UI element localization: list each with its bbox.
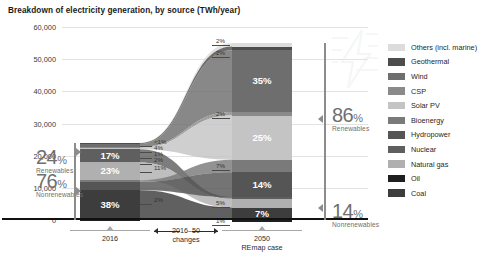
zero-axis-line [2, 218, 368, 220]
legend-label: Bioenergy [411, 116, 444, 125]
segment-leader-label: 2% [216, 37, 225, 44]
bar-segment-label: 23% [80, 166, 140, 176]
chart-canvas: Breakdown of electricity generation, by … [0, 0, 498, 262]
annotation-value: 14 [332, 200, 353, 222]
leader-line [140, 172, 152, 173]
annotation-value: 24 [36, 146, 57, 168]
legend-label: Oil [411, 174, 420, 183]
legend-swatch [388, 189, 405, 197]
legend-swatch [388, 175, 405, 183]
bracket-arrow-icon [318, 204, 323, 212]
segment-leader-label: 2% [216, 110, 225, 117]
y-axis-tick-label: 50,000 [4, 55, 56, 64]
leader-line [212, 207, 230, 208]
legend-item[interactable]: Wind [388, 69, 496, 84]
annotation-percent-sign: % [353, 208, 363, 220]
bar-segment-label: 7% [232, 209, 292, 219]
bar-segment-label: 17% [80, 151, 140, 161]
segment-leader-label: 5% [216, 199, 225, 206]
leader-line [140, 158, 152, 159]
segment-leader-label: 7% [216, 162, 225, 169]
chart-title: Breakdown of electricity generation, by … [8, 6, 240, 15]
bar-segment[interactable] [232, 199, 292, 208]
leader-line [212, 45, 230, 46]
bar-2016[interactable]: 17%23%38% [80, 143, 140, 220]
bar-segment[interactable] [232, 220, 292, 222]
x-axis: 20162016–50changes2050REmap case [62, 224, 368, 258]
annotation-value: 76 [36, 170, 57, 192]
leader-line [212, 57, 230, 58]
x-axis-caret-icon [258, 226, 266, 231]
legend-swatch [388, 44, 405, 52]
legend-item[interactable]: Hydropower [388, 128, 496, 143]
segment-leader-label: 2% [154, 196, 163, 203]
legend-label: CSP [411, 87, 426, 96]
bracket-2050-renewables [324, 43, 326, 220]
legend-item[interactable]: Nuclear [388, 142, 496, 157]
bracket-arrow-icon [76, 148, 81, 156]
legend-label: Others (incl. marine) [411, 43, 477, 52]
annotation-2050-renewables: 86% Renewables [332, 105, 369, 133]
legend-swatch [388, 146, 405, 154]
leader-line [140, 146, 152, 147]
y-axis-tick-label: 40,000 [4, 87, 56, 96]
legend-label: Wind [411, 72, 428, 81]
legend-item[interactable]: Bioenergy [388, 113, 496, 128]
legend-swatch [388, 117, 405, 125]
legend-label: Coal [411, 189, 426, 198]
annotation-caption: Renewables [332, 126, 369, 133]
leader-line [140, 164, 152, 165]
legend-label: Solar PV [411, 101, 440, 110]
legend-item[interactable]: Coal [388, 186, 496, 201]
legend-swatch [388, 58, 405, 66]
annotation-percent-sign: % [57, 178, 67, 190]
segment-leader-label: 2% [154, 156, 163, 163]
legend: Others (incl. marine)GeothermalWindCSPSo… [388, 40, 496, 201]
leader-line [212, 170, 230, 171]
leader-line [140, 152, 152, 153]
legend-swatch [388, 102, 405, 110]
legend-item[interactable]: Natural gas [388, 157, 496, 172]
segment-leader-label: 2% [216, 49, 225, 56]
bar-segment-label: 14% [232, 180, 292, 190]
annotation-value: 86 [332, 104, 353, 126]
leader-line [212, 118, 230, 119]
legend-item[interactable]: Geothermal [388, 55, 496, 70]
legend-label: Hydropower [411, 130, 450, 139]
legend-item[interactable]: Solar PV [388, 98, 496, 113]
bracket-arrow-icon [318, 115, 323, 123]
legend-item[interactable]: Oil [388, 171, 496, 186]
legend-label: Nuclear [411, 145, 436, 154]
legend-swatch [388, 87, 405, 95]
bar-2050-remap[interactable]: 35%25%14%7% [232, 43, 292, 220]
annotation-percent-sign: % [57, 154, 67, 166]
legend-item[interactable]: Others (incl. marine) [388, 40, 496, 55]
lightning-bolt-icon [332, 28, 378, 90]
y-axis-tick-label: 30,000 [4, 120, 56, 129]
x-axis-caret-icon [106, 226, 114, 231]
x-axis-label-line: 2050 [217, 234, 307, 243]
legend-swatch [388, 131, 405, 139]
legend-swatch [388, 160, 405, 168]
annotation-2016-nonrenewables: 76% Nonrenewables [36, 171, 83, 199]
legend-label: Natural gas [411, 160, 448, 169]
annotation-percent-sign: % [353, 112, 363, 124]
bar-segment[interactable] [80, 182, 140, 190]
bracket-arrow-icon [76, 187, 81, 195]
bar-segment-label: 35% [232, 76, 292, 86]
legend-label: Geothermal [411, 57, 449, 66]
legend-swatch [388, 73, 405, 81]
x-axis-label: 2050REmap case [217, 234, 307, 252]
leader-line [140, 204, 152, 205]
legend-item[interactable]: CSP [388, 84, 496, 99]
bar-segment-label: 38% [80, 200, 140, 210]
x-axis-label-line: REmap case [217, 243, 307, 252]
bar-segment[interactable] [232, 160, 292, 172]
segment-leader-label: 11% [154, 164, 166, 171]
bar-segment-label: 25% [232, 133, 292, 143]
y-axis-tick-label: 60,000 [4, 23, 56, 32]
plot-area: 17%23%38% 35%25%14%7% <1%4%1%2%11%2%2%2%… [62, 27, 368, 220]
